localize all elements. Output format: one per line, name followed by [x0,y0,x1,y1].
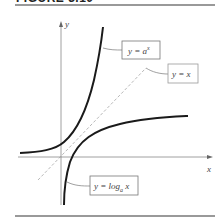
x-axis-label: x [206,164,211,174]
svg-text:y = ax: y = ax [127,45,150,56]
exponential-curve [20,27,103,153]
exp-label-sup: x [146,45,150,51]
log-leader-line [67,182,90,186]
y-axis-arrow-icon [59,21,63,27]
exp-label-box: y = ax [122,41,160,59]
exp-leader-line [103,48,122,50]
identity-leader-line [146,68,168,74]
x-axis-arrow-icon [207,155,213,159]
identity-label-box: y = x [168,64,198,83]
log-label-suffix: x [123,181,129,191]
identity-label-text: y = x [171,69,191,79]
log-label-box: y = loga x [90,176,138,195]
exp-label-text: y = a [127,46,148,56]
log-label-text: y = log [93,181,121,191]
y-axis-label: y [64,19,69,29]
function-graph: y x y = ax y = x y = loga x [0,0,224,224]
